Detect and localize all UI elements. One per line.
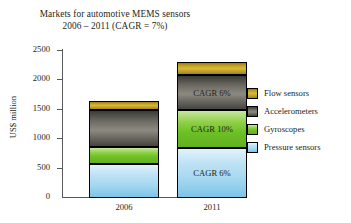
bar-segment-2006-accelerometers[interactable]	[89, 110, 159, 147]
y-tick-500	[57, 168, 63, 169]
y-tick-label-2000: 2000	[16, 73, 50, 83]
x-tick-label-2006: 2006	[84, 202, 164, 212]
bar-segment-2011-gyroscopes[interactable]: CAGR 10%	[177, 110, 247, 148]
bar-segment-2006-gyroscopes[interactable]	[89, 147, 159, 164]
legend-swatch-flow-sensors	[247, 88, 258, 99]
legend-swatch-pressure-sensors	[247, 142, 258, 153]
bar-segment-2006-pressure-sensors[interactable]	[89, 164, 159, 198]
legend-item-flow-sensors[interactable]: Flow sensors	[247, 84, 321, 102]
legend-label-pressure-sensors: Pressure sensors	[264, 142, 321, 152]
x-tick-label-2011: 2011	[172, 202, 252, 212]
y-tick-label-500: 500	[16, 162, 50, 172]
legend-label-flow-sensors: Flow sensors	[264, 88, 309, 98]
chart-title-line1: Markets for automotive MEMS sensors	[40, 9, 191, 19]
chart-title: Markets for automotive MEMS sensors 2006…	[0, 8, 230, 32]
legend-item-accelerometers[interactable]: Accelerometers	[247, 102, 321, 120]
legend-label-gyroscopes: Gyroscopes	[264, 124, 305, 134]
y-tick-label-0: 0	[16, 191, 50, 201]
legend-swatch-accelerometers	[247, 106, 258, 117]
legend-item-gyroscopes[interactable]: Gyroscopes	[247, 120, 321, 138]
bar-segment-2011-pressure-sensors[interactable]: CAGR 6%	[177, 148, 247, 198]
legend-swatch-gyroscopes	[247, 124, 258, 135]
chart-legend: Flow sensors Accelerometers Gyroscopes P…	[247, 84, 321, 156]
y-axis-line	[62, 49, 63, 198]
chart-subtitle: 2006 – 2011 (CAGR = 7%)	[0, 20, 230, 32]
y-tick-label-2500: 2500	[16, 44, 50, 54]
legend-label-accelerometers: Accelerometers	[264, 106, 318, 116]
bar-segment-2006-flow-sensors[interactable]	[89, 101, 159, 110]
bar-label-2011-accelerometers: CAGR 6%	[178, 88, 246, 98]
chart-figure: Markets for automotive MEMS sensors 2006…	[0, 0, 351, 223]
legend-item-pressure-sensors[interactable]: Pressure sensors	[247, 138, 321, 156]
bar-segment-2011-flow-sensors[interactable]	[177, 62, 247, 75]
y-tick-label-1000: 1000	[16, 132, 50, 142]
y-tick-1000	[57, 138, 63, 139]
y-tick-2500	[57, 50, 63, 51]
bar-label-2011-pressure-sensors: CAGR 6%	[178, 168, 246, 178]
bar-segment-2011-accelerometers[interactable]: CAGR 6%	[177, 75, 247, 110]
y-tick-label-1500: 1500	[16, 103, 50, 113]
y-tick-1500	[57, 109, 63, 110]
y-tick-2000	[57, 79, 63, 80]
bar-label-2011-gyroscopes: CAGR 10%	[178, 124, 246, 134]
